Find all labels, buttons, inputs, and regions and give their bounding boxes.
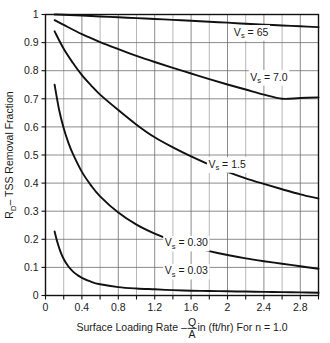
x-tick-label: 0.8 bbox=[111, 301, 126, 313]
y-tick-label: 0.6 bbox=[24, 121, 39, 133]
y-tick-label: 0.5 bbox=[24, 149, 39, 161]
x-tick-label: 2.4 bbox=[257, 301, 272, 313]
x-tick-label: 2 bbox=[225, 301, 231, 313]
x-tick-label: 1.2 bbox=[147, 301, 162, 313]
y-tick-label: 0.4 bbox=[24, 177, 39, 189]
x-tick-label: 0 bbox=[43, 301, 49, 313]
x-axis-title-numerator: Q bbox=[188, 316, 196, 328]
x-axis-title-prefix: Surface Loading Rate – bbox=[76, 321, 186, 333]
chart-container: 00.40.81.21.622.42.8 00.10.20.30.40.50.6… bbox=[0, 0, 330, 343]
y-tick-label: 0 bbox=[33, 289, 39, 301]
y-tick-label: 0.7 bbox=[24, 93, 39, 105]
y-tick-label: 1 bbox=[33, 8, 39, 20]
x-axis-title-denominator: A bbox=[189, 328, 196, 340]
y-tick-label: 0.1 bbox=[24, 261, 39, 273]
y-tick-label: 0.3 bbox=[24, 205, 39, 217]
x-axis-title-suffix: in (ft/hr) For n = 1.0 bbox=[197, 321, 287, 333]
y-tick-label: 0.8 bbox=[24, 64, 39, 76]
x-tick-label: 0.4 bbox=[75, 301, 90, 313]
y-tick-label: 0.2 bbox=[24, 233, 39, 245]
x-tick-label: 2.8 bbox=[293, 301, 308, 313]
tss-removal-chart: 00.40.81.21.622.42.8 00.10.20.30.40.50.6… bbox=[0, 0, 330, 343]
y-tick-label: 0.9 bbox=[24, 36, 39, 48]
x-tick-label: 1.6 bbox=[184, 301, 199, 313]
